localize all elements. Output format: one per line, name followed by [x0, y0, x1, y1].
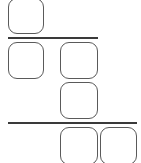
answer-box-box-e[interactable] [60, 127, 98, 163]
answer-box-box-b[interactable] [8, 42, 44, 79]
answer-box-box-a[interactable] [8, 0, 44, 34]
divider-1-line [8, 37, 98, 39]
divider-2-line [8, 122, 137, 124]
answer-box-box-f[interactable] [100, 127, 137, 163]
answer-box-box-d[interactable] [60, 82, 98, 119]
answer-box-box-c[interactable] [60, 42, 98, 79]
